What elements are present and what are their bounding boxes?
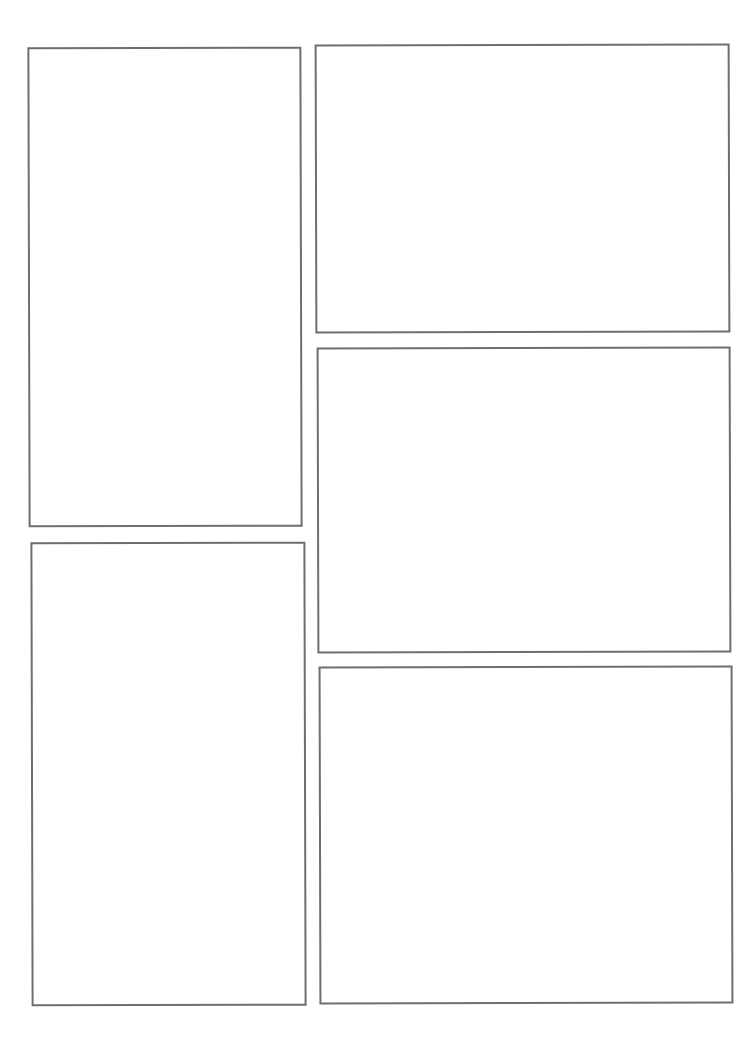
panel-5 [319, 665, 734, 1004]
panel-2 [315, 43, 731, 333]
panel-4 [30, 542, 306, 1007]
panel-3 [317, 346, 732, 653]
panel-1 [27, 47, 302, 528]
